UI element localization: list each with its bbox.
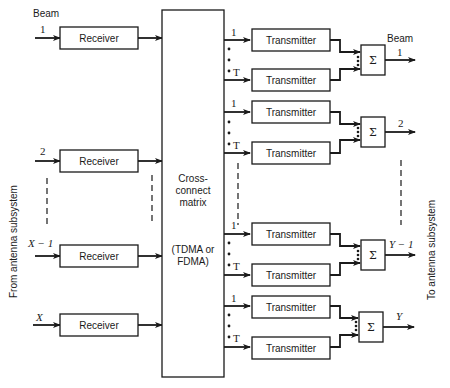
summer-sigma-y-minus-1: Σ bbox=[369, 249, 377, 262]
matrix-mode-line-1: (TDMA or bbox=[172, 244, 215, 255]
matrix-title-line-2: connect bbox=[175, 185, 210, 196]
output-beam-label-1: 1 bbox=[397, 46, 403, 58]
transmitter-label-y-t: Transmitter bbox=[266, 343, 317, 354]
tx-index-y-minus-1-t: T bbox=[233, 260, 240, 272]
output-group-y-minus-1: 1 T Transmitter Transmitter Σ Y − 1 bbox=[224, 219, 415, 286]
output-beam-label-y-minus-1: Y − 1 bbox=[389, 238, 414, 250]
transmitter-label-y-1: Transmitter bbox=[266, 302, 317, 313]
receiver-2: 2 Receiver bbox=[35, 145, 162, 172]
output-beam-header: Beam bbox=[387, 33, 413, 44]
tx-index-2-t: T bbox=[233, 139, 240, 151]
tx-index-1-t: T bbox=[233, 66, 240, 78]
matrix-title-line-3: matrix bbox=[179, 197, 206, 208]
transmitter-label-y-minus-1-1: Transmitter bbox=[266, 229, 317, 240]
tx-index-2-1: 1 bbox=[231, 97, 237, 109]
output-beam-label-y: Y bbox=[396, 310, 404, 322]
transmitter-label-1-t: Transmitter bbox=[266, 75, 317, 86]
receiver-label-x-minus-1: Receiver bbox=[79, 251, 119, 262]
tx-index-y-t: T bbox=[233, 332, 240, 344]
receiver-label-x: Receiver bbox=[79, 320, 119, 331]
cross-connect-diagram: From antenna subsystem To antenna subsys… bbox=[0, 0, 450, 388]
receiver-1: 1 Receiver bbox=[35, 23, 162, 49]
right-side-label: To antenna subsystem bbox=[426, 200, 437, 300]
receiver-label-1: Receiver bbox=[79, 33, 119, 44]
left-side-label: From antenna subsystem bbox=[8, 185, 19, 298]
summer-sigma-2: Σ bbox=[369, 126, 377, 139]
receiver-label-2: Receiver bbox=[79, 156, 119, 167]
receiver-x: X Receiver bbox=[33, 311, 162, 336]
tx-index-y-1: 1 bbox=[231, 292, 237, 304]
summer-sigma-y: Σ bbox=[367, 321, 375, 334]
transmitter-label-1-1: Transmitter bbox=[266, 35, 317, 46]
tx-index-1-1: 1 bbox=[231, 26, 237, 38]
output-group-2: 1 T Transmitter Transmitter Σ 2 bbox=[224, 97, 415, 164]
cross-connect-matrix: Cross- connect matrix (TDMA or FDMA) bbox=[162, 10, 224, 377]
transmitter-label-2-1: Transmitter bbox=[266, 107, 317, 118]
summer-sigma-1: Σ bbox=[369, 54, 377, 67]
matrix-title-line-1: Cross- bbox=[178, 173, 207, 184]
input-beam-label-2: 2 bbox=[40, 145, 46, 157]
transmitter-label-y-minus-1-t: Transmitter bbox=[266, 270, 317, 281]
matrix-mode-line-2: FDMA) bbox=[177, 256, 209, 267]
transmitter-label-2-t: Transmitter bbox=[266, 148, 317, 159]
input-beam-header: Beam bbox=[33, 8, 59, 19]
output-beam-label-2: 2 bbox=[398, 117, 404, 129]
input-beam-label-x: X bbox=[35, 311, 44, 323]
receiver-x-minus-1: X − 1 Receiver bbox=[27, 237, 162, 267]
tx-index-y-minus-1-1: 1 bbox=[231, 219, 237, 231]
output-group-1: 1 T Transmitter Transmitter Σ Beam 1 bbox=[224, 26, 415, 91]
input-beam-label-1: 1 bbox=[40, 23, 46, 35]
output-group-y: 1 T Transmitter Transmitter Σ Y bbox=[224, 292, 414, 359]
input-beam-label-x-minus-1: X − 1 bbox=[27, 237, 53, 249]
